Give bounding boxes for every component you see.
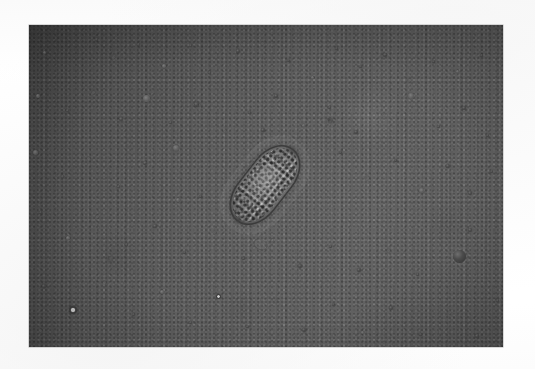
debris-particle xyxy=(365,176,369,180)
debris-particle xyxy=(92,91,95,94)
debris-particle xyxy=(408,93,414,99)
debris-particle xyxy=(189,321,192,324)
debris-particle xyxy=(298,264,302,268)
bleed-line xyxy=(506,80,535,91)
debris-particle xyxy=(302,328,306,332)
debris-particle xyxy=(354,130,358,134)
debris-particle xyxy=(36,94,40,98)
debris-particle xyxy=(389,306,393,310)
debris-particle xyxy=(216,294,221,299)
debris-particle xyxy=(42,284,46,288)
debris-particle xyxy=(328,118,333,123)
debris-particle xyxy=(117,185,120,188)
debris-particle xyxy=(160,290,164,294)
debris-particle xyxy=(143,161,147,165)
debris-particle xyxy=(43,51,46,54)
debris-particle xyxy=(261,128,265,132)
debris-particle xyxy=(242,257,245,260)
micrograph-figure xyxy=(29,25,503,347)
debris-particle xyxy=(108,256,113,261)
debris-particle xyxy=(475,334,479,338)
bleed-line xyxy=(506,91,535,102)
debris-particle xyxy=(274,94,278,98)
parasite-ovum xyxy=(216,136,314,234)
debris-particle xyxy=(311,76,314,79)
debris-particle xyxy=(432,60,435,63)
debris-particle xyxy=(448,311,451,314)
debris-particle xyxy=(183,251,186,254)
debris-particle xyxy=(419,333,422,336)
bleed-line xyxy=(506,69,535,80)
debris-particle xyxy=(66,236,70,240)
debris-particle xyxy=(456,70,459,73)
debris-particle xyxy=(468,191,472,195)
debris-particle xyxy=(112,56,115,59)
debris-particle xyxy=(153,224,157,228)
debris-particle xyxy=(261,42,264,45)
debris-particle xyxy=(480,54,483,57)
debris-particle xyxy=(271,239,274,242)
bleed-through-text-top xyxy=(58,0,528,13)
debris-particle xyxy=(132,313,135,316)
debris-particle xyxy=(382,113,385,116)
debris-particle xyxy=(96,215,99,218)
debris-particle xyxy=(103,281,106,284)
debris-particle xyxy=(199,195,202,198)
debris-particle xyxy=(95,38,98,41)
debris-particle xyxy=(208,71,211,74)
debris-particle xyxy=(387,249,390,252)
debris-particle xyxy=(236,49,240,53)
debris-particle xyxy=(137,43,140,46)
debris-particle xyxy=(408,79,411,82)
debris-particle xyxy=(468,228,472,232)
debris-particle xyxy=(339,151,342,154)
debris-particle xyxy=(437,125,440,128)
debris-particle xyxy=(446,164,450,168)
bleed-line xyxy=(506,58,535,69)
debris-particle xyxy=(169,121,172,124)
debris-particle xyxy=(302,124,305,127)
debris-particle xyxy=(357,268,361,272)
debris-particle xyxy=(394,159,397,162)
debris-particle xyxy=(194,102,199,107)
debris-particle xyxy=(119,117,123,121)
debris-particle xyxy=(361,331,364,334)
debris-particle xyxy=(328,106,331,109)
debris-particle xyxy=(248,111,251,114)
debris-particle xyxy=(496,299,499,302)
debris-particle xyxy=(39,211,42,214)
debris-particle xyxy=(359,65,362,68)
bleed-through-text-right xyxy=(506,58,535,258)
debris-particle xyxy=(287,59,290,62)
debris-particle xyxy=(486,134,489,137)
debris-particle xyxy=(69,306,77,314)
debris-particle xyxy=(274,299,277,302)
debris-particle xyxy=(329,245,332,248)
debris-particle xyxy=(490,170,493,173)
debris-particle xyxy=(39,329,42,332)
debris-particle xyxy=(223,129,226,132)
page-canvas xyxy=(0,0,535,369)
debris-particle xyxy=(246,325,249,328)
debris-particle xyxy=(453,250,466,263)
debris-particle xyxy=(173,145,179,151)
debris-particle xyxy=(162,64,166,68)
debris-particle xyxy=(419,188,424,193)
debris-particle xyxy=(143,95,150,102)
debris-particle xyxy=(462,106,466,110)
debris-particle xyxy=(189,44,192,47)
debris-particle xyxy=(335,47,338,50)
debris-particle xyxy=(488,261,491,264)
debris-particle xyxy=(125,243,128,246)
debris-particle xyxy=(416,273,419,276)
debris-particle xyxy=(33,150,38,155)
debris-particle xyxy=(383,53,387,57)
debris-particle xyxy=(66,109,69,112)
debris-particle xyxy=(61,175,64,178)
debris-particle xyxy=(332,303,335,306)
debris-particle xyxy=(87,157,90,160)
ovum-body xyxy=(219,135,312,236)
debris-particle xyxy=(176,198,180,202)
